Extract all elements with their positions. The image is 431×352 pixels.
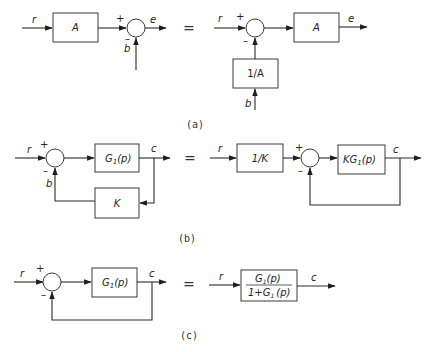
input-label: r xyxy=(27,144,32,155)
plus-sign: + xyxy=(295,142,303,153)
equals-sign: = xyxy=(183,276,195,292)
block-a-label: A xyxy=(71,22,79,33)
disturbance-label: b xyxy=(245,98,251,109)
panel-a-right: r + – A e 1/A b xyxy=(214,11,367,110)
panel-a-left: r A + – b e xyxy=(22,13,166,70)
input-label: r xyxy=(218,13,223,24)
minus-sign: – xyxy=(43,165,48,176)
input-label: r xyxy=(20,268,25,279)
output-label: e xyxy=(348,13,354,24)
output-label: c xyxy=(393,144,399,155)
minus-sign: – xyxy=(41,289,46,300)
output-label: c xyxy=(149,268,155,279)
caption-a: (a) xyxy=(186,119,204,130)
plus-sign: + xyxy=(36,263,44,274)
denominator: 1+G1(p) xyxy=(248,287,290,299)
feedback-signal-label: b xyxy=(46,178,52,189)
output-label: c xyxy=(151,143,157,154)
block-inverse-a-label: 1/A xyxy=(247,68,264,79)
panel-c-right: r G1(p) 1+G1(p) c xyxy=(209,270,335,301)
input-label: r xyxy=(219,271,224,282)
minus-sign: – xyxy=(243,35,248,46)
pre-block-label: 1/K xyxy=(252,153,270,164)
disturbance-label: b xyxy=(124,43,130,54)
panel-b: r + – G1(p) c K b = r 1/K + – xyxy=(15,139,421,244)
panel-b-right: r 1/K + – KG1(p) c xyxy=(210,142,421,205)
summing-junction xyxy=(46,149,64,167)
numerator: G1(p) xyxy=(255,273,281,285)
output-label: c xyxy=(311,272,317,283)
panel-b-left: r + – G1(p) c K b xyxy=(15,139,170,218)
block-a-label: A xyxy=(312,22,320,33)
output-label: e xyxy=(150,14,156,25)
panel-c-left: r + – G1(p) c xyxy=(14,263,166,320)
block-diagram-figure: r A + – b e = r + – A e 1/A xyxy=(0,0,431,352)
summing-junction xyxy=(246,19,264,37)
equals-sign: = xyxy=(183,20,195,36)
equals-sign: = xyxy=(184,150,196,166)
caption-c: (c) xyxy=(180,330,198,341)
feedback-return-path xyxy=(55,168,95,201)
caption-b: (b) xyxy=(178,233,196,244)
panel-a: r A + – b e = r + – A e 1/A xyxy=(22,11,367,130)
plus-sign: + xyxy=(236,11,244,22)
plus-sign: + xyxy=(40,139,48,150)
panel-c: r + – G1(p) c = r G1(p) 1+G1(p) c (c) xyxy=(14,263,335,341)
input-label: r xyxy=(32,14,37,25)
plus-sign: + xyxy=(116,13,124,24)
feedback-path xyxy=(140,158,154,203)
summing-junction xyxy=(301,149,319,167)
input-label: r xyxy=(218,143,223,154)
minus-sign: – xyxy=(298,165,303,176)
